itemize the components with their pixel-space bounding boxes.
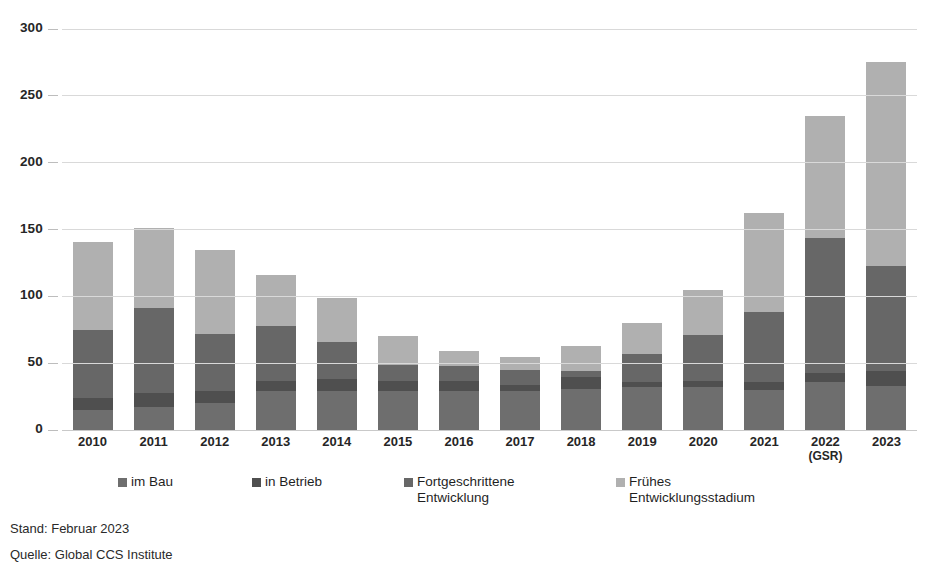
bar-segment[interactable] (439, 391, 479, 430)
bar-segment[interactable] (622, 382, 662, 387)
x-axis-label: 2019 (607, 434, 677, 449)
bar-segment[interactable] (622, 354, 662, 382)
bar-segment[interactable] (134, 393, 174, 408)
bar-segment[interactable] (317, 298, 357, 342)
gridline (62, 229, 917, 230)
y-axis-tick-label: 250 (0, 87, 43, 102)
footer-date: Stand: Februar 2023 (10, 521, 510, 536)
bar-segment[interactable] (561, 346, 601, 371)
bar-segment[interactable] (134, 407, 174, 430)
bar-segment[interactable] (744, 312, 784, 382)
x-axis-label: 2022(GSR) (790, 434, 860, 464)
bar-segment[interactable] (73, 410, 113, 430)
x-axis-label: 2016 (424, 434, 494, 449)
legend-item[interactable]: in Betrieb (252, 474, 322, 490)
bar-segment[interactable] (439, 381, 479, 392)
x-axis-label: 2018 (546, 434, 616, 449)
bar-segment[interactable] (683, 335, 723, 380)
bar-segment[interactable] (500, 391, 540, 430)
bar-segment[interactable] (195, 250, 235, 334)
bar-segment[interactable] (622, 323, 662, 354)
bar-segment[interactable] (73, 398, 113, 410)
bar-segment[interactable] (317, 342, 357, 379)
gridline (62, 162, 917, 163)
y-axis-tick-mark (48, 430, 58, 431)
x-axis-label: 2020 (668, 434, 738, 449)
footer-source: Quelle: Global CCS Institute (10, 547, 510, 562)
bar-segment[interactable] (134, 308, 174, 392)
legend-swatch-icon (404, 478, 413, 487)
gridline (62, 363, 917, 364)
y-axis-tick-mark (48, 162, 58, 163)
bar-segment[interactable] (683, 387, 723, 430)
bar-segment[interactable] (195, 391, 235, 403)
y-axis-tick-mark (48, 29, 58, 30)
bar-segment[interactable] (317, 391, 357, 430)
y-axis-tick-mark (48, 95, 58, 96)
x-axis-label: 2011 (119, 434, 189, 449)
chart-footer: Stand: Februar 2023 Quelle: Global CCS I… (10, 521, 510, 572)
bar-segment[interactable] (805, 373, 845, 382)
bar-segment[interactable] (866, 266, 906, 372)
bar-segment[interactable] (73, 330, 113, 398)
bar-segment[interactable] (866, 62, 906, 265)
bar-segment[interactable] (561, 371, 601, 376)
x-axis-label: 2015 (363, 434, 433, 449)
y-axis-tick-label: 50 (0, 354, 43, 369)
bar-segment[interactable] (378, 336, 418, 364)
legend-item[interactable]: Frühes Entwicklungsstadium (616, 474, 755, 506)
y-axis-tick-label: 150 (0, 221, 43, 236)
bar-segment[interactable] (73, 242, 113, 330)
bar-segment[interactable] (195, 403, 235, 430)
bar-segment[interactable] (378, 381, 418, 392)
y-axis-tick-label: 300 (0, 20, 43, 35)
bar-segment[interactable] (317, 379, 357, 391)
x-axis-label: 2013 (241, 434, 311, 449)
x-axis-label: 2017 (485, 434, 555, 449)
y-axis-tick-mark (48, 296, 58, 297)
y-axis-tick-mark (48, 363, 58, 364)
legend-swatch-icon (118, 478, 127, 487)
x-axis-label: 2023 (851, 434, 921, 449)
x-axis-labels: 2010201120122013201420152016201720182019… (62, 434, 917, 474)
bar-segment[interactable] (256, 391, 296, 430)
bar-segment[interactable] (500, 370, 540, 385)
bar-segment[interactable] (866, 371, 906, 386)
y-axis-tick-label: 100 (0, 287, 43, 302)
bar-segment[interactable] (805, 382, 845, 430)
bar-segment[interactable] (866, 386, 906, 430)
bar-segment[interactable] (744, 390, 784, 430)
x-axis-label: 2014 (302, 434, 372, 449)
bar-segment[interactable] (805, 238, 845, 373)
gridline (62, 29, 917, 30)
bar-segment[interactable] (256, 275, 296, 326)
legend-label: in Betrieb (265, 474, 322, 490)
bar-segment[interactable] (561, 377, 601, 389)
bar-segment[interactable] (805, 116, 845, 238)
legend-swatch-icon (252, 478, 261, 487)
legend-item[interactable]: im Bau (118, 474, 173, 490)
legend-item[interactable]: Fortgeschrittene Entwicklung (404, 474, 515, 506)
y-axis-tick-mark (48, 229, 58, 230)
legend-label: Frühes Entwicklungsstadium (629, 474, 755, 506)
bar-segment[interactable] (256, 381, 296, 392)
y-axis-tick-label: 200 (0, 154, 43, 169)
bar-segment[interactable] (500, 385, 540, 392)
bar-segment[interactable] (256, 326, 296, 381)
legend-label: Fortgeschrittene Entwicklung (417, 474, 515, 506)
bar-segment[interactable] (744, 382, 784, 390)
plot-area: 050100150200250300 (62, 29, 917, 430)
legend-swatch-icon (616, 478, 625, 487)
x-axis-label: 2010 (58, 434, 128, 449)
x-axis-label: 2021 (729, 434, 799, 449)
bar-segment[interactable] (378, 391, 418, 430)
y-axis-tick-label: 0 (0, 421, 43, 436)
gridline (62, 95, 917, 96)
bar-segment[interactable] (439, 366, 479, 381)
bar-segment[interactable] (622, 387, 662, 430)
bar-segment[interactable] (561, 389, 601, 430)
bar-segment[interactable] (683, 381, 723, 388)
bar-segment[interactable] (378, 365, 418, 381)
axis-line-zero (62, 430, 917, 431)
x-axis-sublabel: (GSR) (790, 449, 860, 464)
